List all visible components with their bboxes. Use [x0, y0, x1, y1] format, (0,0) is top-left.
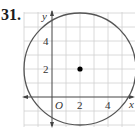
center-point: [77, 66, 82, 71]
y-axis-label: y: [41, 10, 47, 22]
x-axis-left-arrow-icon: [22, 95, 28, 99]
y-tick-4: 4: [43, 35, 49, 47]
x-axis-label: x: [128, 98, 134, 110]
x-tick-2: 2: [77, 99, 83, 111]
origin-label: O: [55, 99, 63, 111]
x-tick-4: 4: [105, 99, 111, 111]
y-tick-2: 2: [43, 63, 49, 75]
coordinate-plane: y x O 2 4 2 4: [0, 0, 135, 129]
